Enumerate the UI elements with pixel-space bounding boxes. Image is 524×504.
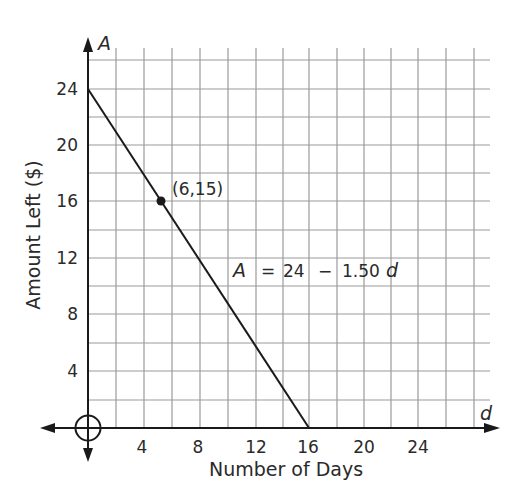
x-tick-labels: 4 8 12 16 20 24 bbox=[137, 437, 429, 457]
y-axis-variable: A bbox=[96, 32, 111, 54]
x-tick: 4 bbox=[137, 437, 148, 457]
x-axis-title: Number of Days bbox=[209, 458, 363, 480]
line-chart: A d 24 20 16 12 8 4 4 8 12 16 20 24 Numb… bbox=[0, 0, 524, 504]
equation-d: d bbox=[386, 259, 399, 281]
axes bbox=[40, 37, 500, 462]
x-tick: 24 bbox=[407, 437, 429, 457]
equation-minus: − bbox=[318, 261, 332, 281]
x-axis-variable: d bbox=[480, 402, 493, 424]
x-axis-right-arrow-icon bbox=[484, 423, 500, 433]
equation-A: A bbox=[231, 259, 246, 281]
x-tick: 16 bbox=[297, 437, 319, 457]
y-tick-labels: 24 20 16 12 8 4 bbox=[56, 79, 78, 381]
point-label: (6,15) bbox=[172, 179, 223, 199]
grid bbox=[88, 48, 490, 428]
y-tick: 24 bbox=[56, 79, 78, 99]
y-tick: 4 bbox=[67, 361, 78, 381]
y-tick: 8 bbox=[67, 304, 78, 324]
equation-constant: 24 bbox=[283, 261, 305, 281]
y-tick: 16 bbox=[56, 191, 78, 211]
x-axis-left-arrow-icon bbox=[40, 423, 55, 433]
y-axis-title: Amount Left ($) bbox=[22, 160, 44, 309]
y-tick: 12 bbox=[56, 248, 78, 268]
y-axis-down-arrow-icon bbox=[83, 448, 93, 462]
x-tick: 8 bbox=[193, 437, 204, 457]
equation-equals: = bbox=[261, 261, 275, 281]
x-tick: 20 bbox=[353, 437, 375, 457]
y-tick: 20 bbox=[56, 135, 78, 155]
data-point bbox=[157, 197, 166, 206]
equation-coefficient: 1.50 bbox=[342, 261, 380, 281]
x-tick: 12 bbox=[245, 437, 267, 457]
y-axis-up-arrow-icon bbox=[83, 37, 93, 52]
